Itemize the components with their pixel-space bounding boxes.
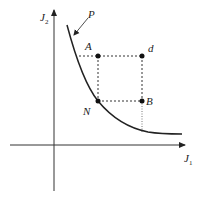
x-axis-label: J1 xyxy=(184,152,193,167)
label-n: N xyxy=(82,105,91,117)
label-b: B xyxy=(146,95,153,107)
point-n xyxy=(96,99,101,104)
label-d: d xyxy=(148,42,154,54)
y-axis-label: J2 xyxy=(40,11,49,26)
curve-pointer-arrow xyxy=(74,18,88,35)
dominance-box xyxy=(79,56,142,101)
point-a xyxy=(96,54,101,59)
pareto-diagram: J2 J1 P A d N B xyxy=(0,0,203,199)
point-b xyxy=(140,99,145,104)
point-d xyxy=(140,54,145,59)
label-a: A xyxy=(84,40,92,52)
